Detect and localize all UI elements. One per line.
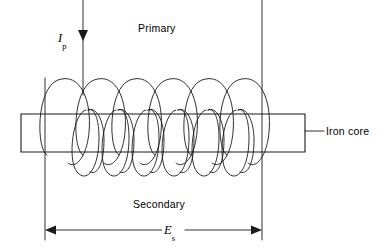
secondary-emf-subscript: s [172,233,175,243]
secondary-label: Secondary [133,199,185,210]
iron-core-label: Iron core [326,126,369,137]
dimension-arrow-right [251,226,262,235]
primary-current-symbol: Ip [58,29,66,48]
transformer-diagram: Primary Iron core Secondary Ip Es [0,0,383,251]
primary-current-subscript: p [62,41,66,51]
dimension-arrow-left [45,226,56,235]
secondary-emf-symbol: Es [162,221,178,240]
secondary-winding [72,109,254,176]
secondary-emf-base: E [164,223,172,237]
primary-label: Primary [138,23,176,34]
primary-current-arrowhead [78,30,88,41]
